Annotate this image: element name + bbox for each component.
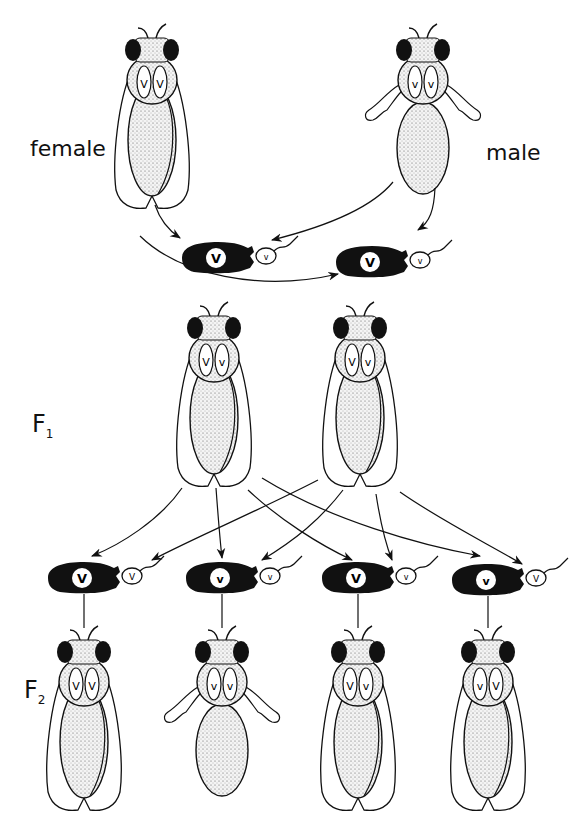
male-label: male	[486, 140, 541, 165]
genetics-diagram: V V v v V v V v V v V v	[0, 0, 571, 837]
f2-letter: F	[24, 676, 38, 704]
f2-fly-1: V V	[47, 626, 121, 810]
parent-gamete-pair-2: V v	[336, 240, 452, 277]
allele-label: V	[348, 356, 356, 369]
f2-fly-3: V v	[321, 626, 395, 810]
parent-male-fly: v v	[366, 24, 481, 194]
f2-fly-4: v V	[451, 626, 525, 810]
allele-label: V	[88, 680, 96, 693]
f2-fly-2: v v	[165, 626, 280, 796]
f2-generation-label: F2	[24, 676, 45, 707]
f2-gamete-pair-3: V v	[322, 556, 438, 593]
allele-label: v	[477, 680, 484, 693]
parent-gamete-pair-1: V v	[182, 236, 298, 273]
f1-arrows	[92, 478, 522, 564]
allele-label: v	[428, 78, 435, 91]
allele-label: V	[492, 680, 500, 693]
allele-label: V	[140, 78, 148, 91]
allele-label: V	[346, 680, 354, 693]
f2-connectors	[84, 594, 488, 628]
allele-label: v	[365, 356, 372, 369]
egg-allele: V	[365, 255, 375, 270]
f1-fly-1: V v	[177, 302, 251, 486]
allele-label: v	[412, 78, 419, 91]
sperm-allele: v	[404, 573, 409, 582]
allele-label: v	[211, 680, 218, 693]
f1-fly-2: V v	[323, 302, 397, 486]
sperm-allele: V	[129, 572, 136, 582]
sperm-allele: v	[418, 257, 423, 266]
allele-label: V	[202, 356, 210, 369]
f2-subscript: 2	[38, 693, 46, 707]
sperm-allele: V	[533, 574, 540, 584]
f1-letter: F	[32, 410, 46, 438]
allele-label: v	[363, 680, 370, 693]
f2-gamete-pair-1: V V	[48, 556, 164, 593]
allele-label: V	[72, 680, 80, 693]
egg-allele: V	[211, 251, 221, 266]
egg-allele: V	[77, 571, 87, 586]
sperm-allele: v	[268, 573, 273, 582]
f2-gamete-pair-4: v V	[452, 558, 568, 595]
egg-allele: v	[482, 575, 490, 588]
f1-generation-label: F1	[32, 410, 53, 441]
allele-label: v	[227, 680, 234, 693]
egg-allele: v	[216, 573, 224, 586]
parent-female-fly: V V	[115, 24, 189, 208]
allele-label: V	[156, 78, 164, 91]
allele-label: v	[219, 356, 226, 369]
f1-subscript: 1	[46, 427, 54, 441]
f2-gamete-pair-2: v v	[186, 556, 302, 593]
egg-allele: V	[351, 571, 361, 586]
sperm-allele: v	[264, 253, 269, 262]
female-label: female	[30, 136, 106, 161]
